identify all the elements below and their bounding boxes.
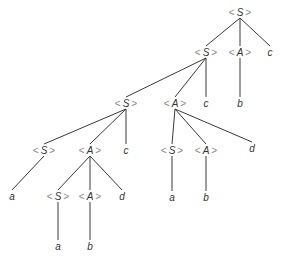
- tree-edge: [175, 109, 206, 144]
- nonterminal-node: <A>: [79, 191, 102, 202]
- nonterminal-node: <S>: [229, 7, 252, 18]
- nonterminal-node: <S>: [33, 145, 56, 156]
- nonterminal-node: <S>: [47, 191, 70, 202]
- tree-edge: [172, 109, 175, 144]
- terminal-node: c: [268, 47, 273, 58]
- tree-edge: [44, 109, 126, 144]
- tree-edge: [175, 109, 252, 142]
- terminal-node: b: [87, 241, 93, 252]
- terminal-node: b: [203, 192, 209, 203]
- tree-edge: [58, 156, 90, 190]
- nonterminal-node: <A>: [229, 47, 252, 58]
- tree-edge: [90, 156, 122, 190]
- tree-edge: [90, 109, 126, 144]
- tree-edge: [206, 18, 240, 46]
- tree-nodes: <S><S><A>c<S><A>cb<S><A>c<S><A>da<S><A>d…: [9, 7, 272, 252]
- terminal-node: d: [249, 143, 255, 154]
- nonterminal-node: <A>: [164, 98, 187, 109]
- tree-edge: [126, 58, 206, 97]
- terminal-node: a: [55, 241, 61, 252]
- nonterminal-node: <S>: [195, 47, 218, 58]
- nonterminal-node: <A>: [79, 145, 102, 156]
- terminal-node: b: [237, 98, 243, 109]
- terminal-node: d: [119, 191, 125, 202]
- terminal-node: a: [9, 191, 15, 202]
- nonterminal-node: <S>: [115, 98, 138, 109]
- terminal-node: a: [169, 192, 175, 203]
- tree-edge: [175, 58, 206, 97]
- tree-edge: [240, 18, 270, 46]
- nonterminal-node: <S>: [161, 145, 184, 156]
- terminal-node: c: [204, 98, 209, 109]
- nonterminal-node: <A>: [195, 145, 218, 156]
- parse-tree: <S><S><A>c<S><A>cb<S><A>c<S><A>da<S><A>d…: [0, 0, 283, 259]
- tree-edge: [12, 156, 44, 190]
- terminal-node: c: [124, 145, 129, 156]
